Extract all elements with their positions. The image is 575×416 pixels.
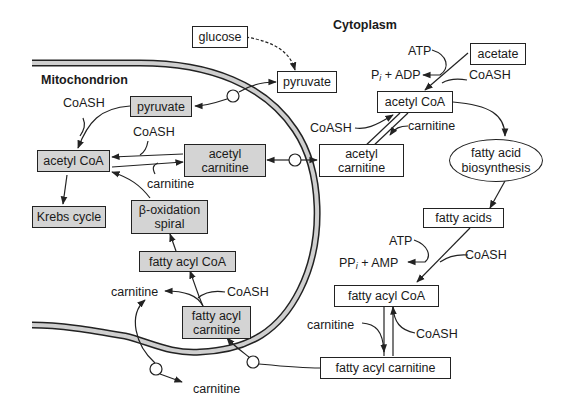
node-krebs-cycle: Krebs cycle [32, 206, 106, 228]
label-coash-acetate: CoASH [469, 68, 511, 82]
node-acetate: acetate [470, 43, 526, 65]
node-cyto-acetyl-carnitine: acetyl carnitine [319, 144, 404, 177]
label-coash-mito-acetyl: CoASH [133, 125, 175, 139]
label-coash-fatty-acids: CoASH [465, 248, 507, 262]
node-mito-pyruvate: pyruvate [130, 96, 192, 117]
transporter-acetyl-carnitine [289, 154, 301, 166]
label-coash-mito-fatty: CoASH [227, 285, 269, 299]
label-pi-adp: Pi + ADP [371, 68, 421, 85]
label-carnitine-mito-fatty: carnitine [111, 285, 158, 299]
label-carnitine-cyto-fatty: carnitine [307, 318, 354, 332]
node-glucose: glucose [192, 26, 248, 48]
label-coash-cyto-fatty: CoASH [416, 327, 458, 341]
cytoplasm-label: Cytoplasm [333, 18, 397, 32]
node-fatty-acids: fatty acids [423, 208, 504, 228]
node-mito-fatty-acyl-coa: fatty acyl CoA [139, 251, 236, 272]
node-cyto-acetyl-coa: acetyl CoA [377, 91, 453, 113]
label-carnitine-bottom: carnitine [193, 382, 240, 396]
node-mito-acetyl-coa: acetyl CoA [37, 150, 110, 172]
label-ppi-amp: PPi + AMP [339, 256, 398, 273]
node-fatty-acid-biosynthesis: fatty acid biosynthesis [449, 139, 543, 182]
node-mito-fatty-acyl-carnitine: fatty acyl carnitine [182, 306, 251, 339]
label-atp-top: ATP [408, 44, 431, 58]
node-beta-oxidation: β-oxidation spiral [131, 200, 208, 234]
label-carnitine-cyto-acetyl: carnitine [408, 119, 455, 133]
label-coash-mito-pyruvate: CoASH [63, 96, 105, 110]
transporter-pyruvate [227, 90, 239, 102]
label-carnitine-mito-acetyl: carnitine [147, 177, 194, 191]
node-cyto-pyruvate: pyruvate [277, 71, 337, 93]
transporter-fatty-acyl-carnitine [247, 356, 259, 368]
node-cyto-fatty-acyl-coa: fatty acyl CoA [334, 285, 439, 307]
label-coash-cyto-acetyl: CoASH [310, 121, 352, 135]
transporter-carnitine [150, 363, 162, 375]
node-cyto-fatty-acyl-carnitine: fatty acyl carnitine [320, 357, 451, 379]
node-mito-acetyl-carnitine: acetyl carnitine [184, 144, 266, 177]
mitochondrion-label: Mitochondrion [41, 73, 128, 87]
label-atp-bottom: ATP [389, 234, 412, 248]
